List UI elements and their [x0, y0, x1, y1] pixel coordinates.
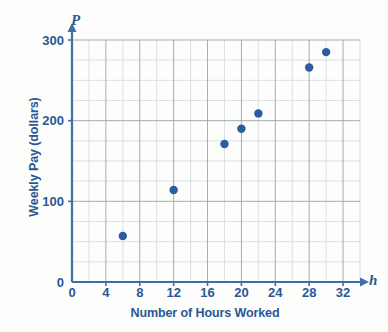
x-tick-label: 20 [226, 286, 256, 299]
x-tick-label: 4 [91, 286, 121, 299]
axis-lines [68, 23, 370, 287]
data-point [254, 109, 262, 117]
data-point [322, 48, 330, 56]
y-axis-title: Weekly Pay (dollars) [27, 57, 41, 257]
scatter-plot-chart: 0100200300 048121620242832 P h Weekly Pa… [0, 0, 388, 332]
y-tick-label: 300 [30, 34, 64, 47]
data-point [169, 186, 177, 194]
x-variable-symbol: h [369, 272, 377, 289]
x-tick-label: 0 [57, 286, 87, 299]
x-tick-label: 24 [260, 286, 290, 299]
x-tick-label: 32 [328, 286, 358, 299]
data-point [237, 125, 245, 133]
data-point [305, 63, 313, 71]
data-point [220, 140, 228, 148]
x-axis-tick-labels: 048121620242832 [0, 286, 388, 306]
x-tick-label: 16 [193, 286, 223, 299]
x-axis-title: Number of Hours Worked [55, 306, 355, 320]
x-tick-label: 8 [125, 286, 155, 299]
data-point [119, 232, 127, 240]
x-tick-label: 28 [294, 286, 324, 299]
grid-minor-lines [72, 40, 360, 282]
x-tick-label: 12 [159, 286, 189, 299]
y-variable-symbol: P [71, 12, 80, 29]
